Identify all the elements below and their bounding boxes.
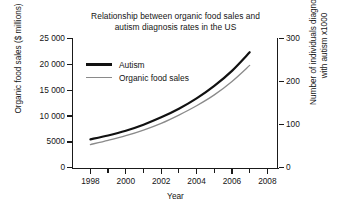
legend-item-organic-food-sales: Organic food sales: [86, 71, 189, 84]
legend-label-organic-food-sales: Organic food sales: [119, 73, 189, 83]
legend-swatch-organic-food-sales: [86, 77, 112, 79]
chart-legend: Autism Organic food sales: [86, 58, 189, 84]
legend-swatch-autism: [86, 63, 112, 66]
legend-label-autism: Autism: [119, 60, 145, 70]
series-plot: [0, 0, 351, 216]
legend-item-autism: Autism: [86, 58, 189, 71]
chart-container: Relationship between organic food sales …: [0, 0, 351, 216]
